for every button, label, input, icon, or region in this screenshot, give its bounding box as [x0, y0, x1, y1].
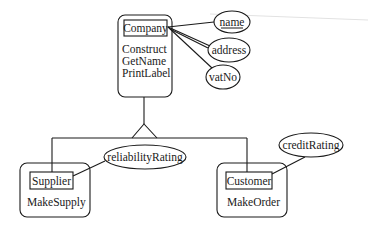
- attribute-address-label: address: [212, 44, 247, 56]
- customer-method-makeorder: MakeOrder: [227, 196, 280, 208]
- attribute-creditrating-label: creditRating: [283, 139, 340, 152]
- attribute-reliabilityrating-label: reliabilityRating: [107, 151, 183, 164]
- supplier-entity[interactable]: Supplier MakeSupply: [20, 163, 90, 217]
- isa-triangle-icon: [132, 124, 157, 138]
- connector-address: [168, 27, 210, 46]
- attribute-name-label: name: [220, 16, 245, 28]
- attribute-vatno[interactable]: vatNo: [206, 65, 240, 89]
- company-method-getname: GetName: [122, 55, 166, 67]
- attribute-reliabilityrating[interactable]: reliabilityRating: [104, 145, 186, 169]
- supplier-name: Supplier: [32, 175, 71, 188]
- attribute-vatno-label: vatNo: [209, 71, 237, 83]
- connector-vatno: [168, 27, 212, 68]
- er-diagram: Company Construct GetName PrintLabel nam…: [0, 0, 368, 231]
- supplier-box: [20, 163, 90, 217]
- connector-name: [168, 22, 214, 27]
- connector-address-2: [170, 29, 208, 48]
- company-entity[interactable]: Company Construct GetName PrintLabel: [118, 15, 172, 97]
- attribute-address[interactable]: address: [208, 38, 250, 62]
- supplier-method-makesupply: MakeSupply: [27, 196, 86, 209]
- company-name: Company: [123, 22, 168, 35]
- company-method-printlabel: PrintLabel: [122, 67, 171, 79]
- attribute-name[interactable]: name: [214, 11, 250, 33]
- company-method-construct: Construct: [122, 43, 168, 55]
- attribute-creditrating[interactable]: creditRating: [279, 133, 343, 157]
- customer-name: Customer: [227, 175, 272, 187]
